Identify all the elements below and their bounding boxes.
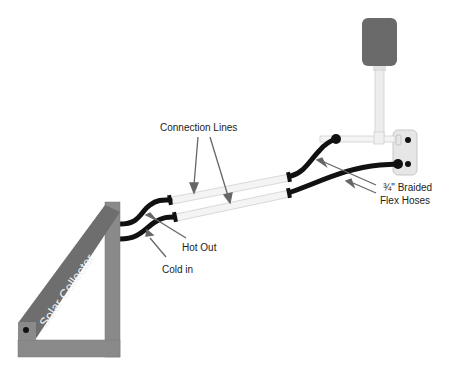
label-cold-in: Cold in — [162, 264, 193, 275]
flex-hoses — [291, 139, 398, 192]
solar-collector: Solar Collector — [18, 202, 120, 357]
solar-diagram: Solar Collector Connection Lines ¾" Brai… — [0, 0, 450, 376]
label-hot-out: Hot Out — [182, 242, 217, 253]
tank — [362, 18, 397, 138]
label-connection-lines: Connection Lines — [160, 122, 237, 133]
label-flex-hoses-2: Flex Hoses — [380, 195, 430, 206]
label-flex-hoses-1: ¾" Braided — [383, 182, 432, 193]
